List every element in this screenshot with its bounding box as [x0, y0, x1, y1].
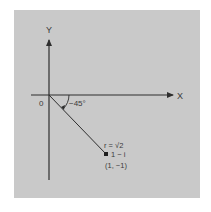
point-marker	[104, 152, 108, 156]
radius-label: r = √2	[104, 141, 123, 150]
coordinate-label: (1, −1)	[105, 161, 127, 170]
x-axis-label: X	[177, 91, 183, 101]
origin-label: 0	[39, 99, 44, 108]
y-axis-label: Y	[46, 25, 52, 35]
complex-number-label: 1 − i	[111, 150, 126, 159]
complex-plane-diagram: Y X 0 −45° r = √2 1 − i (1, −1)	[0, 0, 211, 212]
angle-label: −45°	[69, 99, 86, 108]
